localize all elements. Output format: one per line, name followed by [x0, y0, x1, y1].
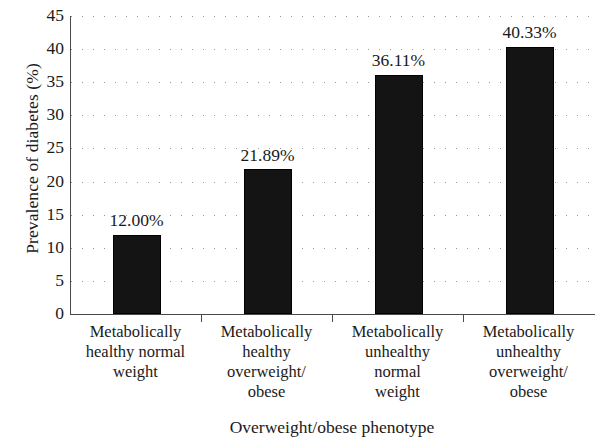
y-axis-tick-labels: 454035302520151050 [22, 0, 64, 447]
y-axis-tick-label: 10 [22, 239, 64, 257]
x-axis-tick [332, 315, 333, 322]
x-axis-category-label-line: obese [204, 382, 329, 402]
x-axis-title: Overweight/obese phenotype [70, 419, 594, 437]
x-axis-category-label: Metabolicallyhealthyoverweight/obese [201, 322, 332, 414]
x-axis-tick [463, 315, 464, 322]
bar-slot: 12.00% [71, 16, 202, 314]
x-axis-category-label-line: overweight/ [204, 362, 329, 382]
x-axis-category-label-line: Metabolically [73, 322, 198, 342]
x-axis-category-label-line: weight [73, 362, 198, 382]
x-axis-category-label-line: Metabolically [204, 322, 329, 342]
bar-slot: 40.33% [464, 16, 595, 314]
bar [506, 47, 554, 314]
x-axis-ticks [70, 315, 594, 322]
x-axis-category-label: Metabolicallyunhealthyoverweight/obese [463, 322, 594, 414]
x-axis-category-label-line: unhealthy [466, 342, 591, 362]
x-axis-category-labels: Metabolicallyhealthy normalweightMetabol… [70, 322, 594, 414]
y-axis-tick-label: 5 [22, 272, 64, 290]
bar-value-label: 36.11% [372, 52, 425, 70]
bars-layer: 12.00%21.89%36.11%40.33% [71, 16, 595, 314]
y-axis-tick-label: 0 [22, 305, 64, 323]
bar-slot: 21.89% [202, 16, 333, 314]
x-axis-category-label-line: overweight/ [466, 362, 591, 382]
x-axis-category-label-line: unhealthy [335, 342, 460, 362]
bar-value-label: 12.00% [110, 212, 164, 230]
x-axis-category-label-line: obese [466, 382, 591, 402]
y-axis-tick-label: 30 [22, 107, 64, 125]
x-axis-category-label-line: weight [335, 382, 460, 402]
bar-value-label: 21.89% [241, 147, 295, 165]
bar [375, 75, 423, 314]
bar [113, 235, 161, 314]
y-axis-tick-label: 20 [22, 173, 64, 191]
plot-area: 12.00%21.89%36.11%40.33% [70, 16, 595, 315]
y-axis-tick-label: 35 [22, 73, 64, 91]
x-axis-category-label-line: Metabolically [335, 322, 460, 342]
x-axis-tick [201, 315, 202, 322]
y-axis-tick-label: 45 [22, 7, 64, 25]
bar-slot: 36.11% [333, 16, 464, 314]
y-axis-tick-label: 15 [22, 206, 64, 224]
bar [244, 169, 292, 314]
x-axis-category-label-line: Metabolically [466, 322, 591, 342]
y-axis-tick-label: 40 [22, 40, 64, 58]
bar-chart: Prevalence of diabetes (%) 4540353025201… [0, 0, 597, 447]
x-axis-category-label: Metabolicallyunhealthynormalweight [332, 322, 463, 414]
x-axis-category-label-line: healthy [204, 342, 329, 362]
bar-value-label: 40.33% [503, 24, 557, 42]
x-axis-category-label: Metabolicallyhealthy normalweight [70, 322, 201, 414]
y-axis-tick-label: 25 [22, 140, 64, 158]
x-axis-category-label-line: healthy normal [73, 342, 198, 362]
x-axis-category-label-line: normal [335, 362, 460, 382]
